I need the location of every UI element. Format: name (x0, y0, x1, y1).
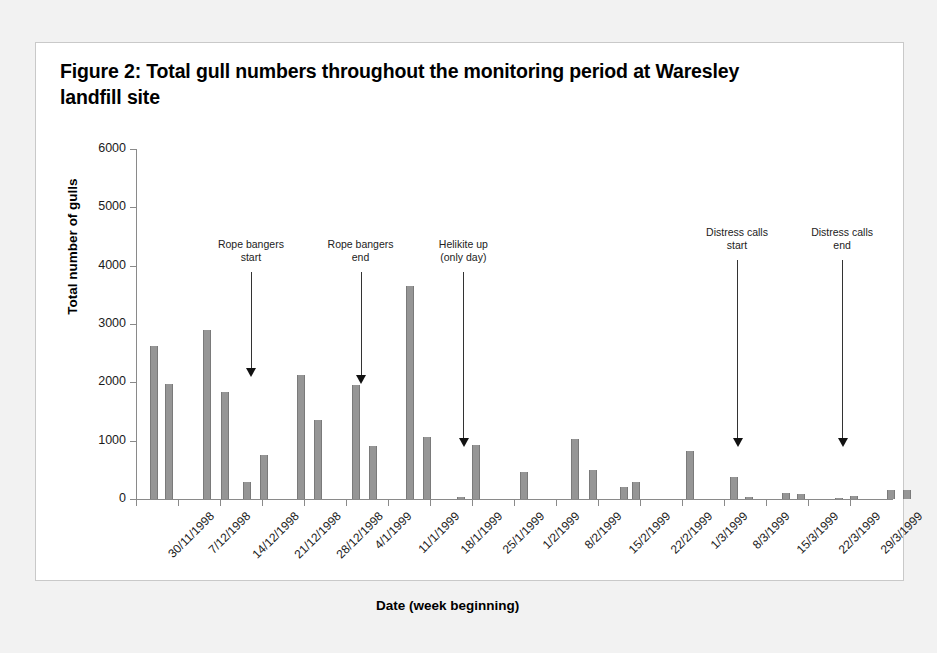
bar (165, 384, 173, 500)
annotation-arrow-head-icon (356, 375, 366, 384)
x-axis-tick-label: 18/1/1999 (458, 509, 506, 557)
x-axis-tick-label: 1/2/1999 (540, 509, 583, 552)
y-axis-tick-label: 5000 (98, 199, 126, 213)
bar (423, 437, 431, 499)
x-axis-tick (682, 500, 683, 506)
annotation-arrow-head-icon (246, 368, 256, 377)
annotation-arrow-head-icon (459, 438, 469, 447)
bar (520, 472, 528, 499)
chart-plot: Total number of gulls 010002000300040005… (36, 43, 905, 582)
annotation-label: Rope bangers start (218, 238, 284, 264)
bar (835, 498, 843, 499)
bars-layer (136, 149, 892, 499)
bar (632, 482, 640, 499)
bar (571, 439, 579, 499)
x-axis-tick-label: 30/11/1998 (165, 509, 217, 561)
bar (203, 330, 211, 499)
annotation-arrow-head-icon (733, 438, 743, 447)
x-axis-tick-label: 22/2/1999 (668, 509, 716, 557)
x-axis-tick (598, 500, 599, 506)
x-axis-tick-label: 29/3/1999 (878, 509, 926, 557)
annotation-arrow-line (842, 260, 843, 439)
bar (730, 477, 738, 499)
bar (797, 494, 805, 499)
figure-container: Figure 2: Total gull numbers throughout … (35, 42, 904, 581)
x-axis-tick (220, 500, 221, 506)
bar (782, 493, 790, 499)
x-axis-tick (388, 500, 389, 506)
bar (887, 490, 895, 499)
bar (745, 497, 753, 499)
x-axis-tick (136, 500, 137, 506)
x-axis-tick (472, 500, 473, 506)
bar (369, 446, 377, 499)
x-axis-tick-label: 25/1/1999 (500, 509, 548, 557)
x-axis-tick (640, 500, 641, 506)
x-axis-tick (724, 500, 725, 506)
annotation-arrow-line (463, 272, 464, 439)
x-axis-tick (556, 500, 557, 506)
annotation-label: Rope bangers end (328, 238, 394, 264)
x-axis-tick-label: 22/3/1999 (836, 509, 884, 557)
y-axis-title: Total number of gulls (65, 147, 80, 347)
bar (686, 451, 694, 499)
y-axis-tick-label: 3000 (98, 316, 126, 330)
bar (620, 487, 628, 499)
x-axis-tick (808, 500, 809, 506)
bar (850, 496, 858, 499)
annotation-label: Distress calls start (706, 226, 768, 252)
bar (903, 490, 911, 499)
annotation-label: Helikite up (only day) (439, 238, 488, 264)
bar (314, 420, 322, 499)
x-axis-tick (346, 500, 347, 506)
x-axis-tick-label: 8/2/1999 (582, 509, 625, 552)
x-axis-tick-label: 11/1/1999 (415, 509, 462, 556)
y-axis-tick-label: 2000 (98, 374, 126, 388)
x-axis-tick (430, 500, 431, 506)
bar (260, 455, 268, 499)
annotation-label: Distress calls end (811, 226, 873, 252)
bar (589, 470, 597, 499)
y-axis-tick-label: 4000 (98, 258, 126, 272)
bar (243, 482, 251, 499)
x-axis-tick (850, 500, 851, 506)
bar (457, 497, 465, 499)
x-axis-tick (262, 500, 263, 506)
x-axis-title: Date (week beginning) (376, 598, 519, 613)
x-axis-tick (514, 500, 515, 506)
x-axis-tick (304, 500, 305, 506)
bar (406, 286, 414, 499)
bar (352, 385, 360, 499)
x-axis-tick-label: 1/3/1999 (708, 509, 751, 552)
bar (472, 445, 480, 499)
annotation-arrow-head-icon (838, 438, 848, 447)
annotation-arrow-line (737, 260, 738, 439)
bar (297, 375, 305, 499)
x-axis-tick-label: 15/2/1999 (626, 509, 674, 557)
x-axis-tick (766, 500, 767, 506)
y-axis-tick-label: 1000 (98, 433, 126, 447)
bar (221, 392, 229, 499)
x-axis-tick-label: 15/3/1999 (794, 509, 842, 557)
bar (150, 346, 158, 499)
x-axis-tick-label: 8/3/1999 (750, 509, 793, 552)
y-axis-tick-label: 0 (119, 491, 126, 505)
annotation-arrow-line (361, 272, 362, 377)
y-axis-tick-label: 6000 (98, 141, 126, 155)
annotation-arrow-line (251, 272, 252, 369)
x-axis-tick (178, 500, 179, 506)
